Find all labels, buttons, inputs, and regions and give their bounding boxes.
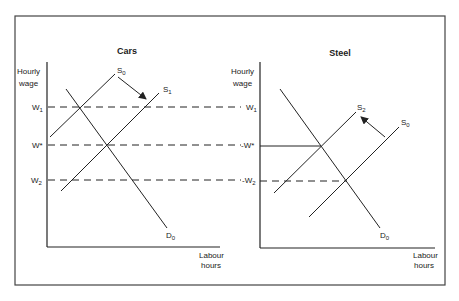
steel-title: Steel xyxy=(329,48,351,58)
steel-y-label-1: Hourly xyxy=(231,67,254,76)
cars-s1-curve xyxy=(61,93,159,191)
cars-x-label-2: hours xyxy=(201,261,221,270)
steel-s0-label: S0 xyxy=(401,118,410,128)
cars-y-label-1: Hourly xyxy=(17,67,40,76)
steel-w1-label: W1 xyxy=(246,103,258,113)
steel-x-label-1: Labour xyxy=(413,251,438,260)
cars-supply-shift-arrow xyxy=(118,77,146,99)
cars-s0-label: S0 xyxy=(117,66,126,76)
steel-y-label-2: wage xyxy=(232,79,253,88)
cars-title: Cars xyxy=(117,46,137,56)
steel-wstar-label: -W* xyxy=(241,141,254,150)
cars-s1-label: S1 xyxy=(163,85,172,95)
cars-chart: Cars Hourly wage Labour hours W1 W* W2 S… xyxy=(17,46,224,270)
steel-w2-label: -W2 xyxy=(242,176,256,186)
steel-s0-curve xyxy=(309,127,399,217)
cars-wstar-label: W* xyxy=(32,141,43,150)
steel-supply-shift-arrow xyxy=(361,117,385,137)
cars-d0-curve xyxy=(66,89,167,228)
steel-d0-label: D0 xyxy=(380,231,390,241)
cars-w2-label: W2 xyxy=(31,176,43,186)
cars-d0-label: D0 xyxy=(166,231,176,241)
cars-x-label-1: Labour xyxy=(199,251,224,260)
labour-market-diagram: Cars Hourly wage Labour hours W1 W* W2 S… xyxy=(0,0,459,301)
steel-chart: Steel Hourly wage Labour hours W1 -W* -W… xyxy=(231,48,438,270)
cars-y-label-2: wage xyxy=(18,79,39,88)
cars-w1-label: W1 xyxy=(32,103,44,113)
wage-reference-lines xyxy=(48,107,347,181)
steel-s2-label: S2 xyxy=(357,103,366,113)
steel-x-label-2: hours xyxy=(414,261,434,270)
outer-frame xyxy=(15,16,445,285)
cars-s0-curve xyxy=(50,74,115,137)
